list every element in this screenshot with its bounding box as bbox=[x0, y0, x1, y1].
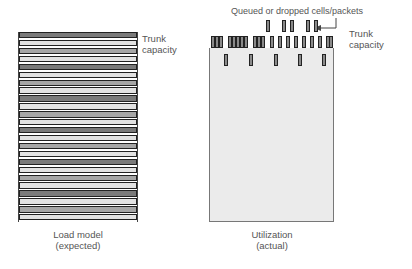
right-caption: Utilization (actual) bbox=[224, 229, 320, 251]
dropped-packet-bar bbox=[314, 20, 318, 32]
capacity-bar bbox=[278, 36, 282, 48]
dropped-packet-bar bbox=[290, 20, 294, 32]
under-capacity-bar bbox=[224, 54, 228, 66]
capacity-bar bbox=[244, 36, 248, 48]
capacity-bar bbox=[261, 36, 265, 48]
capacity-bar bbox=[310, 36, 314, 48]
capacity-bar bbox=[294, 36, 298, 48]
capacity-bar bbox=[270, 36, 274, 48]
under-capacity-bar bbox=[322, 54, 326, 66]
utilization-bars bbox=[0, 0, 412, 269]
capacity-bar bbox=[329, 36, 333, 48]
capacity-bar bbox=[318, 36, 322, 48]
dropped-packet-bar bbox=[306, 20, 310, 32]
caption-line: Utilization bbox=[224, 229, 320, 240]
capacity-bar bbox=[286, 36, 290, 48]
under-capacity-bar bbox=[249, 54, 253, 66]
under-capacity-bar bbox=[274, 54, 278, 66]
under-capacity-bar bbox=[298, 54, 302, 66]
dropped-packet-bar bbox=[266, 20, 270, 32]
dropped-packet-bar bbox=[282, 20, 286, 32]
capacity-bar bbox=[219, 36, 223, 48]
capacity-bar bbox=[302, 36, 306, 48]
caption-line: (actual) bbox=[224, 240, 320, 251]
